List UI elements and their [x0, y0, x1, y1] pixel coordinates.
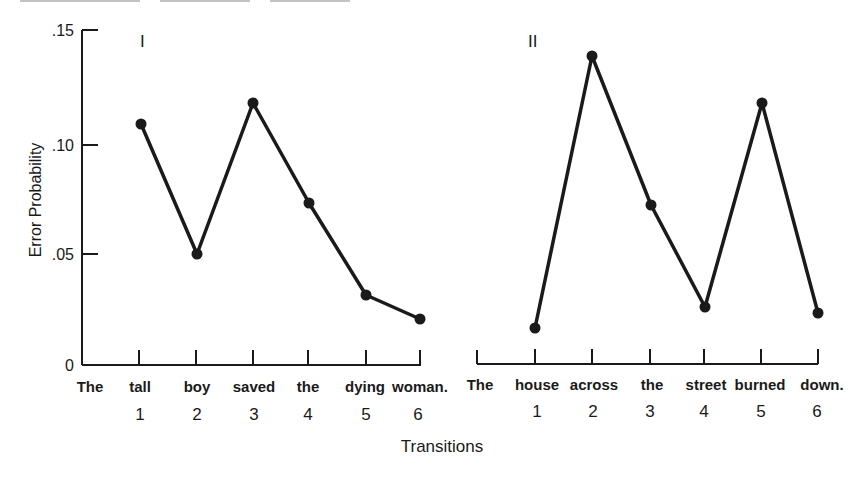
data-point — [813, 308, 824, 319]
data-point — [530, 323, 541, 334]
transition-number: 1 — [532, 402, 541, 421]
panel-1-numbers: 1 2 3 4 5 6 — [135, 405, 422, 424]
data-point — [415, 314, 426, 325]
transition-number: 1 — [135, 405, 144, 424]
cropped-top-text — [20, 0, 350, 2]
transition-number: 2 — [192, 405, 201, 424]
chart-figure: .15 .10 .05 0 Error Probability I The ta… — [0, 0, 868, 480]
data-point — [757, 98, 768, 109]
y-tick-label: .05 — [52, 246, 74, 263]
data-point — [192, 249, 203, 260]
word-label: house — [515, 376, 559, 393]
data-point — [136, 119, 147, 130]
word-label: across — [570, 376, 618, 393]
transition-number: 2 — [588, 402, 597, 421]
y-axis-title: Error Probability — [27, 143, 44, 258]
data-point — [700, 302, 711, 313]
data-point — [646, 200, 657, 211]
panel-2-label: II — [528, 32, 537, 51]
transition-number: 5 — [756, 402, 765, 421]
data-point — [304, 198, 315, 209]
word-label: saved — [233, 378, 276, 395]
y-tick-label: .15 — [52, 22, 74, 39]
y-tick-label: 0 — [65, 357, 74, 374]
x-axis-title: Transitions — [401, 437, 484, 456]
y-axis — [82, 30, 98, 365]
panel-2-words: The house across the street burned down. — [467, 376, 844, 393]
word-label: The — [467, 376, 494, 393]
word-label: street — [686, 376, 727, 393]
y-tick-label: .10 — [52, 137, 74, 154]
word-label: woman. — [391, 378, 448, 395]
word-label: boy — [184, 378, 211, 395]
panel-1-label: I — [140, 32, 145, 51]
data-point — [248, 98, 259, 109]
panel-1-words: The tall boy saved the dying woman. — [77, 378, 448, 395]
data-point — [587, 51, 598, 62]
word-label: the — [297, 378, 320, 395]
transition-number: 3 — [645, 402, 654, 421]
panel-2-numbers: 1 2 3 4 5 6 — [532, 402, 821, 421]
transition-number: 4 — [699, 402, 708, 421]
panel-2-x-axis — [477, 349, 818, 364]
y-tick-labels: .15 .10 .05 0 — [52, 22, 74, 374]
word-label: The — [77, 378, 104, 395]
transition-number: 3 — [249, 405, 258, 424]
panel-1-x-axis — [82, 350, 421, 365]
word-label: the — [641, 376, 664, 393]
word-label: tall — [129, 378, 151, 395]
word-label: dying — [345, 378, 385, 395]
panel-2-series — [530, 51, 824, 334]
transition-number: 4 — [303, 405, 312, 424]
transition-number: 6 — [812, 402, 821, 421]
panel-1-series — [136, 98, 426, 325]
data-point — [361, 290, 372, 301]
word-label: burned — [735, 376, 786, 393]
transition-number: 6 — [413, 405, 422, 424]
transition-number: 5 — [361, 405, 370, 424]
word-label: down. — [800, 376, 843, 393]
